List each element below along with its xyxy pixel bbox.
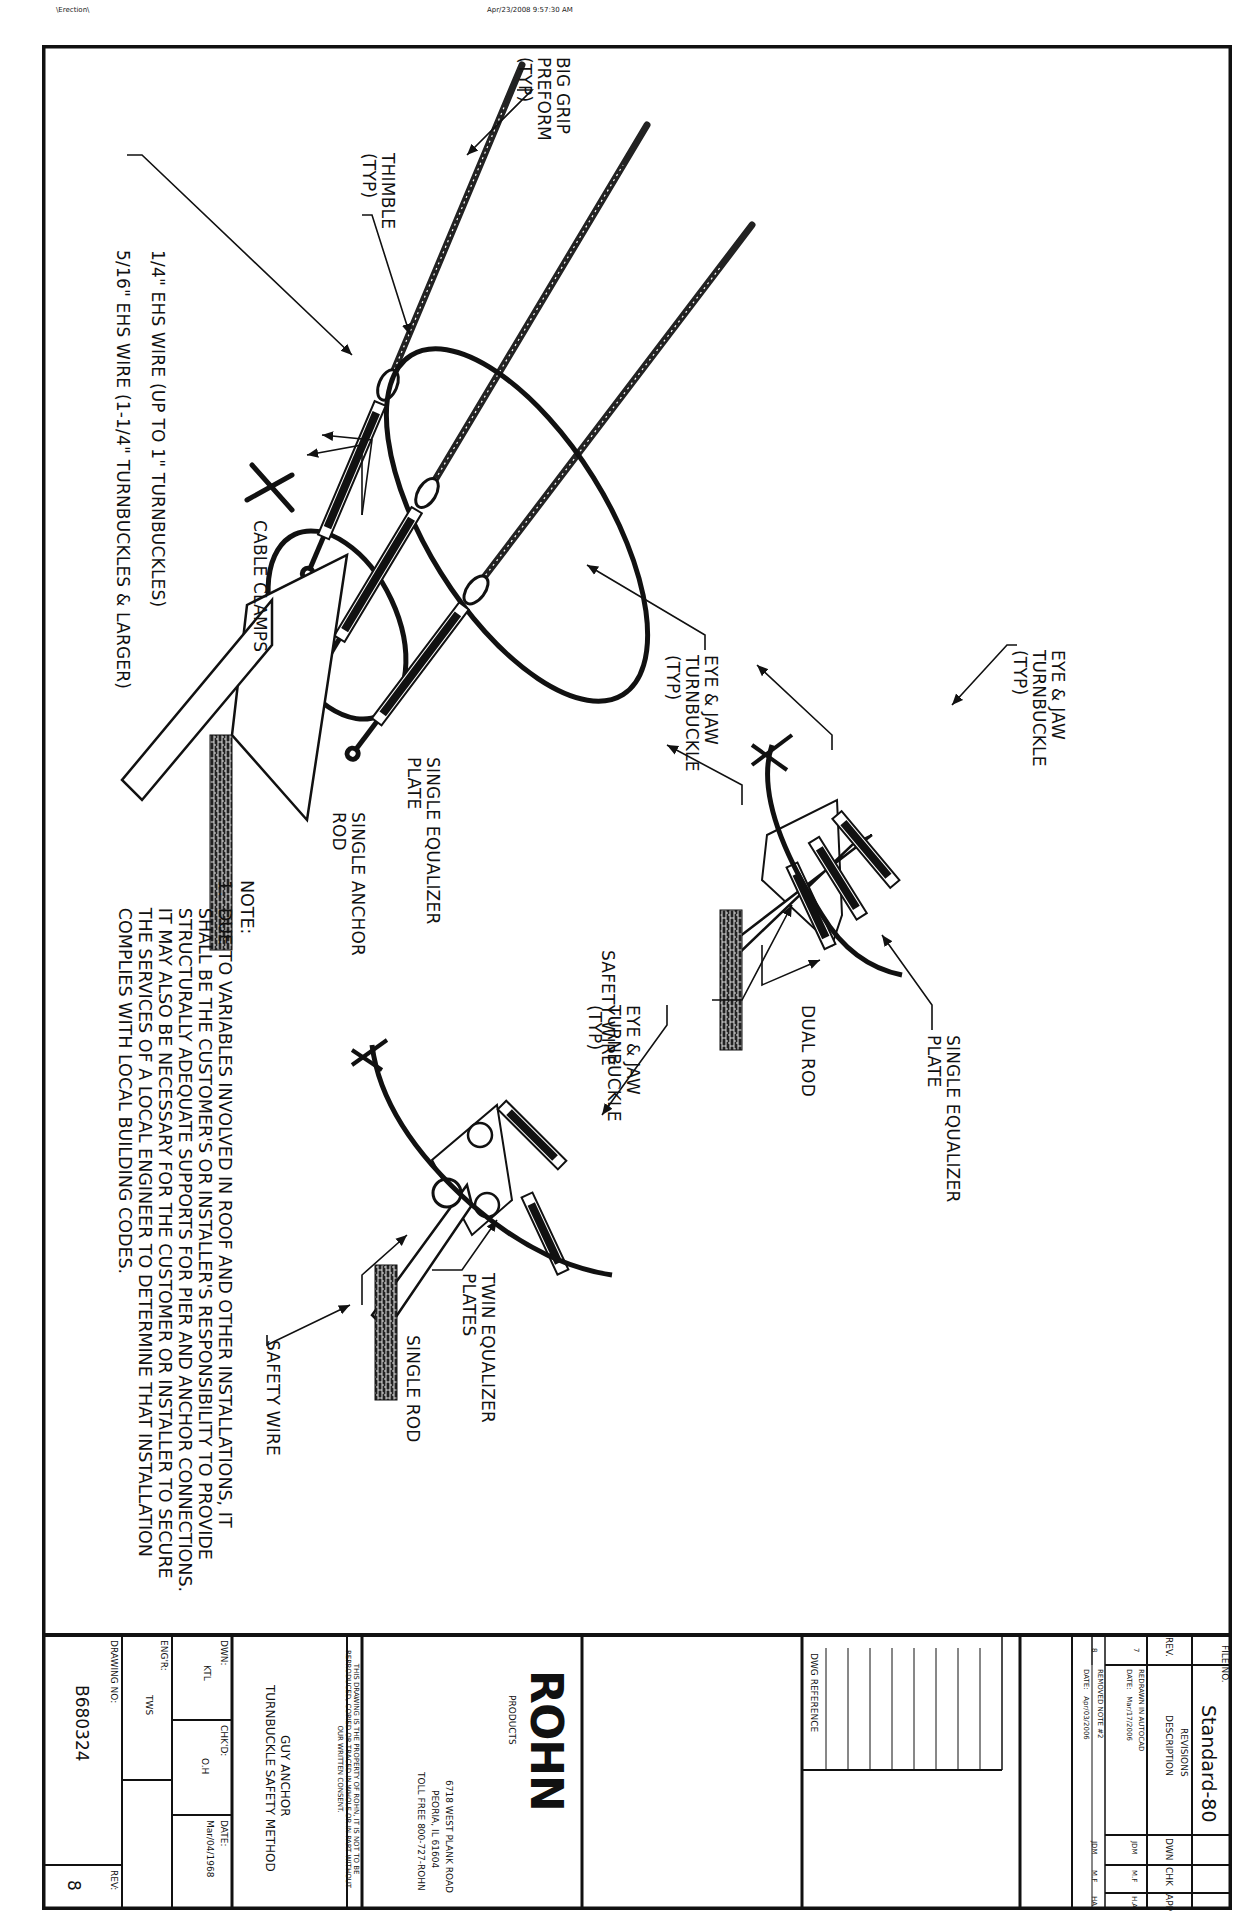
revisions-title: REVISIONS <box>1179 1728 1189 1777</box>
callout-eye-jaw-turnbuckle-twin: EYE & JAW TURNBUCKLE (TYP) <box>585 1005 642 1122</box>
chkd-label: CHK'D: <box>219 1725 229 1756</box>
rev-7-chk: M.F <box>1130 1870 1138 1882</box>
callout-thimble: THIMBLE (TYP) <box>359 153 397 229</box>
rev-8-chk: M.F <box>1090 1870 1098 1882</box>
callout-single-equalizer-plate-dual: SINGLE EQUALIZER PLATE <box>924 1035 962 1202</box>
header-timestamp: Apr/23/2008 9:57:30 AM <box>487 6 573 14</box>
dual-rod-detail-drawing <box>720 735 902 1050</box>
rev-7-dwn: JDM <box>1130 1841 1138 1855</box>
ownership-disclaimer: THIS DRAWING IS THE PROPERTY OF ROHN, IT… <box>336 1650 360 1888</box>
rev-7-app: H.A <box>1130 1896 1138 1908</box>
chkd-value: O.H <box>200 1758 210 1774</box>
engr-value: TWS <box>144 1695 154 1715</box>
callout-quarter-inch-wire: 1/4" EHS WIRE (UP TO 1" TURNBUCKLES) <box>148 250 167 607</box>
callout-single-equalizer-plate-main: SINGLE EQUALIZER PLATE <box>404 757 442 924</box>
callout-cable-clamps: CABLE CLAMPS <box>250 520 269 652</box>
rev-7-description: REDRAWN IN AUTOCAD <box>1137 1669 1145 1751</box>
drawing-sheet: BIG GRIP PREFORM (TYP) THIMBLE (TYP) 1/4… <box>42 45 1232 1910</box>
rev-8-date: DATE: Apr/03/2006 <box>1082 1669 1090 1740</box>
company-phone: TOLL FREE 800-727-ROHN <box>416 1772 426 1891</box>
callout-dual-rod: DUAL ROD <box>798 1005 817 1097</box>
drawing-no-label: DRAWING NO: <box>109 1640 119 1703</box>
rev-7-date: DATE: Mar/17/2006 <box>1125 1669 1133 1741</box>
callout-eye-jaw-turnbuckle-dual: EYE & JAW TURNBUCKLE (TYP) <box>1010 650 1067 767</box>
rev-7-number: 7 <box>1132 1648 1140 1652</box>
app-col-header: APP <box>1164 1894 1174 1911</box>
file-no-label: FILE NO. <box>1220 1645 1230 1683</box>
callout-safety-wire-twin: SAFETY WIRE <box>263 1340 282 1456</box>
notes-heading: NOTE: <box>237 880 257 935</box>
callout-eye-jaw-turnbuckle-main: EYE & JAW TURNBUCKLE (TYP) <box>663 655 720 772</box>
rev-8-description: REMOVED NOTE #2 <box>1096 1669 1104 1739</box>
callout-big-grip-preform: BIG GRIP PREFORM (TYP) <box>515 57 572 141</box>
dwn-label: DWN: <box>219 1640 229 1666</box>
date-value: Mar/04/1968 <box>205 1820 215 1877</box>
callout-twin-equalizer-plates: TWIN EQUALIZER PLATES <box>459 1273 497 1423</box>
company-address-2: PEORIA, IL 61604 <box>430 1790 440 1868</box>
rev-label: REV: <box>109 1870 119 1890</box>
title-block-frame <box>42 1635 1232 1910</box>
header-path: \Erection\ <box>56 6 89 14</box>
callout-five-sixteenths-wire: 5/16" EHS WIRE (1-1/4" TURNBUCKLES & LAR… <box>113 250 132 689</box>
file-no-value: Standard-80 <box>1198 1705 1220 1822</box>
date-label: DATE: <box>219 1820 229 1846</box>
rohn-logo-sub: PRODUCTS <box>507 1695 517 1745</box>
company-address-1: 6718 WEST PLANK ROAD <box>444 1780 454 1893</box>
drawing-title-line-2: TURNBUCKLE SAFETY METHOD <box>263 1685 277 1872</box>
chk-col-header: CHK <box>1164 1867 1174 1886</box>
rev-value: 8 <box>64 1880 84 1891</box>
drawing-title-line-1: GUY ANCHOR <box>278 1735 292 1817</box>
dwg-reference-label: DWG REFERENCE <box>809 1653 819 1732</box>
description-col-header: DESCRIPTION <box>1164 1715 1174 1776</box>
rev-8-app: HA <box>1090 1896 1098 1906</box>
dwn-value: KTL <box>202 1665 212 1681</box>
dwn-col-header: DWN <box>1164 1838 1174 1861</box>
rev-col-header: REV. <box>1164 1637 1174 1657</box>
callout-single-anchor-rod: SINGLE ANCHOR ROD <box>329 812 367 956</box>
rev-8-number: 8 <box>1090 1648 1098 1652</box>
callout-single-rod: SINGLE ROD <box>403 1335 422 1443</box>
rohn-logo: ROHN <box>521 1670 572 1811</box>
rev-8-dwn: JDM <box>1090 1841 1098 1855</box>
note-item-1: 1. DUE TO VARIABLES INVOLVED IN ROOF AND… <box>115 880 235 1592</box>
engr-label: ENG'R: <box>159 1640 169 1671</box>
drawing-no-value: B680324 <box>72 1685 92 1762</box>
